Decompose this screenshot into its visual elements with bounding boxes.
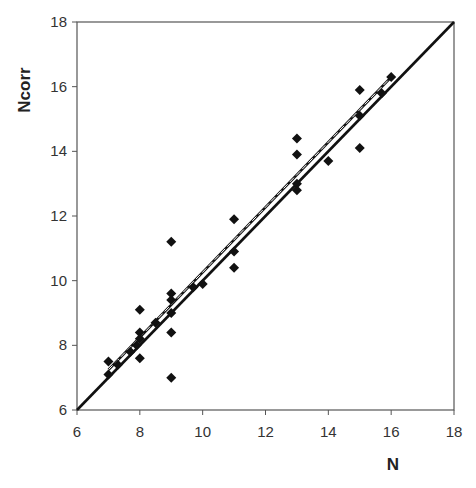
y-tick-label: 6 [59, 401, 67, 418]
x-tick-label: 6 [73, 423, 81, 440]
y-tick-label: 14 [50, 142, 67, 159]
y-tick-label: 10 [50, 272, 67, 289]
x-tick-label: 10 [194, 423, 211, 440]
x-axis: 681012141618 [73, 410, 463, 440]
x-axis-title: N [387, 455, 399, 474]
y-axis-title: Ncorr [15, 67, 34, 113]
y-tick-label: 12 [50, 207, 67, 224]
x-tick-label: 14 [320, 423, 337, 440]
y-tick-label: 16 [50, 78, 67, 95]
y-axis: 681012141618 [50, 13, 77, 418]
y-tick-label: 18 [50, 13, 67, 30]
y-tick-label: 8 [59, 336, 67, 353]
x-tick-label: 18 [446, 423, 463, 440]
x-tick-label: 12 [257, 423, 274, 440]
scatter-chart: 681012141618 681012141618 N Ncorr [0, 0, 476, 488]
x-tick-label: 8 [136, 423, 144, 440]
x-tick-label: 16 [383, 423, 400, 440]
